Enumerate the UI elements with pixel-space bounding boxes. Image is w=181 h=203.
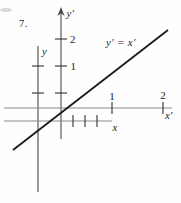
y-prime-tick-label-1: 1 <box>71 60 77 72</box>
y-axis-label: y <box>41 45 47 57</box>
x-axis-label: x <box>112 121 118 133</box>
x-prime-tick-label-2: 2 <box>160 89 166 101</box>
scan-artifact <box>0 8 12 12</box>
y-prime-axis-label: y′ <box>66 7 75 19</box>
problem-number: 7. <box>19 18 28 29</box>
textbook-figure: 7. y′ 2 1 y 1 2 x′ x y′ = x′ <box>0 0 181 203</box>
equation-label: y′ = x′ <box>105 36 136 48</box>
figure-svg: 7. y′ 2 1 y 1 2 x′ x y′ = x′ <box>0 0 181 203</box>
x-prime-axis-label: x′ <box>164 109 173 121</box>
x-prime-tick-label-1: 1 <box>109 90 115 102</box>
scan-smudge <box>0 8 12 12</box>
line-y-prime-equals-x-prime <box>13 30 168 150</box>
y-prime-tick-label-2: 2 <box>70 33 76 45</box>
axes-and-line-layer <box>4 7 172 192</box>
